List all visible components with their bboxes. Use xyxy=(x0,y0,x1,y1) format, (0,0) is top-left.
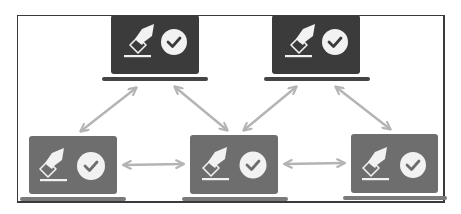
arrow-topright-bottomcenter xyxy=(244,87,296,130)
laptop-base xyxy=(102,77,208,81)
laptop-base xyxy=(20,197,126,201)
arrow-bottomleft-bottomcenter xyxy=(124,164,183,165)
laptop-top-left xyxy=(102,15,208,82)
arrow-bottomcenter-bottomright xyxy=(285,163,344,164)
laptop-bottom-right xyxy=(343,134,447,201)
laptop-bottom-center xyxy=(182,135,288,202)
arrow-topleft-bottomcenter xyxy=(175,87,227,130)
laptop-base xyxy=(182,197,288,201)
laptop-base xyxy=(264,77,370,81)
laptop-base xyxy=(343,196,447,200)
vote-ballot-check-icon xyxy=(20,136,126,194)
vote-ballot-check-icon xyxy=(102,15,208,75)
arrow-topleft-bottomleft xyxy=(81,88,136,131)
arrow-topright-bottomright xyxy=(336,87,390,129)
vote-ballot-check-icon xyxy=(264,15,370,75)
vote-ballot-check-icon xyxy=(343,134,447,193)
laptop-bottom-left xyxy=(20,136,126,202)
vote-ballot-check-icon xyxy=(182,135,288,194)
laptop-top-right xyxy=(264,15,370,82)
